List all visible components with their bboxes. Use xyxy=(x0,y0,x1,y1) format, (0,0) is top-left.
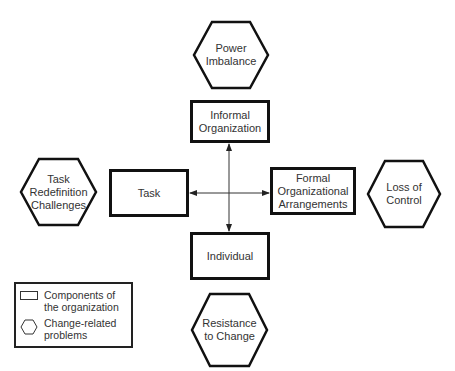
problem-label: Loss of Control xyxy=(366,159,442,229)
component-formal-arrangements: Formal Organizational Arrangements xyxy=(270,167,356,215)
problem-resistance-to-change: Resistance to Change xyxy=(190,292,269,368)
component-task: Task xyxy=(109,169,189,217)
problem-loss-of-control: Loss of Control xyxy=(366,159,442,229)
problem-task-redefinition: Task Redefinition Challenges xyxy=(19,157,98,227)
legend-label: Components of the organization xyxy=(44,289,124,313)
problem-power-imbalance: Power Imbalance xyxy=(192,20,270,90)
rectangle-icon xyxy=(20,291,38,300)
problem-label: Resistance to Change xyxy=(190,292,269,368)
component-informal-organization: Informal Organization xyxy=(190,100,270,143)
problem-label: Power Imbalance xyxy=(192,20,270,90)
component-individual: Individual xyxy=(190,232,270,280)
legend-label: Change-related problems xyxy=(44,317,124,341)
problem-label: Task Redefinition Challenges xyxy=(19,157,98,227)
hexagon-icon xyxy=(20,319,38,335)
legend: Components of the organization Change-re… xyxy=(14,282,133,348)
legend-item-problems: Change-related problems xyxy=(20,317,124,341)
legend-item-components: Components of the organization xyxy=(20,289,124,313)
